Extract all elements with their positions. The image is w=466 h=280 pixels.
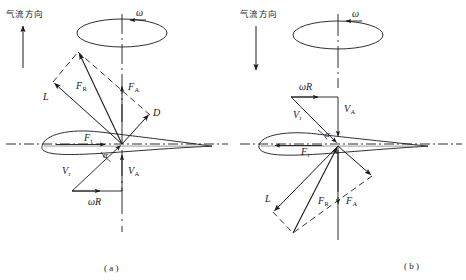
axial-velocity-label-b: VA	[344, 104, 355, 114]
omega-label-b: ω	[352, 9, 359, 19]
figure-root: 气流方向 ω L D FR FA Ft α Vr VA ωR ( a ) 气流方…	[0, 0, 466, 280]
relative-velocity-subscript-a: r	[68, 170, 70, 177]
tangential-force-label-a: Ft	[84, 133, 92, 143]
axial-force-subscript-b: A	[352, 200, 357, 207]
resultant-force-label-b: FR	[318, 196, 328, 206]
axial-velocity-subscript-b: A	[350, 108, 355, 115]
lift-label-a: L	[43, 92, 49, 102]
resultant-force-subscript-b: R	[324, 200, 328, 207]
tangential-force-subscript-b: t	[307, 151, 309, 158]
angle-of-attack-label-b: α	[325, 130, 330, 139]
relative-velocity-label-b: Vr	[293, 110, 301, 120]
flow-direction-label-b: 气流方向	[240, 10, 277, 19]
panel-b	[240, 14, 462, 240]
panel-a	[6, 14, 228, 232]
resultant-force-label-a: FR	[76, 81, 86, 91]
angle-of-attack-label-a: α	[103, 151, 108, 160]
axial-velocity-subscript-a: A	[134, 170, 139, 177]
axial-force-label-b: FA	[346, 196, 357, 206]
airfoil-section-a	[42, 131, 212, 155]
resultant-force-vector-b	[293, 148, 337, 234]
diagram-canvas	[0, 0, 466, 280]
axial-velocity-label-a: VA	[128, 166, 139, 176]
caption-b: ( b )	[404, 262, 419, 271]
flow-direction-label-a: 气流方向	[6, 10, 43, 19]
tangential-force-label-b: Ft	[301, 147, 309, 157]
drag-vector-a	[122, 115, 149, 144]
lift-label-b: L	[265, 194, 271, 204]
axial-force-label-a: FA	[128, 82, 139, 92]
tangential-force-subscript-a: t	[90, 137, 92, 144]
caption-a: ( a )	[104, 264, 119, 273]
axial-force-subscript-a: A	[134, 86, 139, 93]
relative-velocity-subscript-b: r	[299, 114, 301, 121]
omega-label-a: ω	[136, 8, 143, 18]
resultant-force-vector-a	[79, 53, 122, 144]
drag-label-a: D	[153, 108, 160, 118]
tangential-velocity-label-a: ωR	[88, 197, 101, 207]
relative-velocity-label-a: Vr	[62, 166, 70, 176]
resultant-force-subscript-a: R	[82, 85, 86, 92]
relative-velocity-vector-a	[72, 146, 121, 192]
tangential-velocity-label-b: ωR	[299, 82, 312, 92]
